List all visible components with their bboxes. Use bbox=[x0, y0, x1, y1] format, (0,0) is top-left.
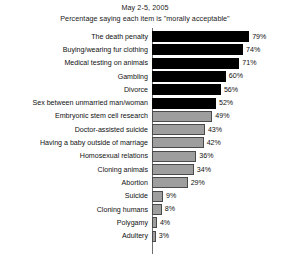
category-label: Embryonic stem cell research bbox=[0, 112, 150, 120]
chart-subtitle: Percentage saying each item is "morally … bbox=[0, 14, 290, 24]
bar-row: Abortion29% bbox=[0, 176, 290, 189]
bar-row: Doctor-assisted suicide43% bbox=[0, 123, 290, 136]
value-label: 4% bbox=[160, 219, 170, 227]
bar-row: Cloning humans8% bbox=[0, 203, 290, 216]
bar-row: Medical testing on animals71% bbox=[0, 57, 290, 70]
bar-row: Homosexual relations36% bbox=[0, 150, 290, 163]
bar-row: Cloning animals34% bbox=[0, 163, 290, 176]
bar-and-value: 36% bbox=[152, 151, 213, 162]
category-label: Abortion bbox=[0, 179, 150, 187]
bar-row: Suicide9% bbox=[0, 190, 290, 203]
value-label: 79% bbox=[252, 33, 266, 41]
bar-and-value: 4% bbox=[152, 217, 170, 228]
bar bbox=[152, 84, 221, 95]
category-label: Sex between unmarried man/woman bbox=[0, 99, 150, 107]
chart-header: May 2-5, 2005 Percentage saying each ite… bbox=[0, 0, 290, 24]
bar-and-value: 79% bbox=[152, 31, 266, 42]
value-label: 49% bbox=[215, 112, 229, 120]
value-label: 71% bbox=[242, 59, 256, 67]
bar-row: Gambling60% bbox=[0, 70, 290, 83]
value-label: 9% bbox=[166, 192, 176, 200]
bar bbox=[152, 124, 205, 135]
category-label: Polygamy bbox=[0, 219, 150, 227]
category-label: Suicide bbox=[0, 192, 150, 200]
bar bbox=[152, 137, 204, 148]
bar bbox=[152, 71, 226, 82]
value-label: 74% bbox=[246, 46, 260, 54]
bar-row: Embryonic stem cell research49% bbox=[0, 110, 290, 123]
bar bbox=[152, 164, 194, 175]
bar-row: Divorce56% bbox=[0, 83, 290, 96]
value-label: 8% bbox=[165, 205, 175, 213]
category-label: Doctor-assisted suicide bbox=[0, 126, 150, 134]
bar-row: Adultery3% bbox=[0, 230, 290, 243]
value-label: 43% bbox=[208, 126, 222, 134]
category-label: Cloning humans bbox=[0, 206, 150, 214]
category-label: Cloning animals bbox=[0, 166, 150, 174]
bar-row: Buying/wearing fur clothing74% bbox=[0, 43, 290, 56]
category-label: Medical testing on animals bbox=[0, 59, 150, 67]
bar-and-value: 60% bbox=[152, 71, 243, 82]
bar-and-value: 29% bbox=[152, 177, 205, 188]
value-label: 56% bbox=[224, 86, 238, 94]
bar-row: Polygamy4% bbox=[0, 216, 290, 229]
chart-title: May 2-5, 2005 bbox=[0, 3, 290, 13]
value-label: 3% bbox=[159, 232, 169, 240]
bar bbox=[152, 191, 163, 202]
value-label: 42% bbox=[207, 139, 221, 147]
bar-row: The death penalty79% bbox=[0, 30, 290, 43]
bar-and-value: 3% bbox=[152, 231, 169, 242]
category-label: Adultery bbox=[0, 232, 150, 240]
bar-row: Having a baby outside of marriage42% bbox=[0, 136, 290, 149]
category-label: Homosexual relations bbox=[0, 152, 150, 160]
bar-and-value: 43% bbox=[152, 124, 222, 135]
bar-and-value: 71% bbox=[152, 58, 257, 69]
bar bbox=[152, 98, 216, 109]
bar-and-value: 34% bbox=[152, 164, 211, 175]
value-label: 36% bbox=[199, 152, 213, 160]
value-label: 29% bbox=[191, 179, 205, 187]
bar-and-value: 74% bbox=[152, 44, 260, 55]
bar bbox=[152, 111, 212, 122]
bar bbox=[152, 204, 162, 215]
bar-and-value: 49% bbox=[152, 111, 229, 122]
value-label: 52% bbox=[219, 99, 233, 107]
bar-and-value: 56% bbox=[152, 84, 238, 95]
category-label: Gambling bbox=[0, 73, 150, 81]
bar-and-value: 42% bbox=[152, 137, 221, 148]
category-label: Buying/wearing fur clothing bbox=[0, 46, 150, 54]
bar bbox=[152, 217, 157, 228]
bar bbox=[152, 231, 156, 242]
category-label: Divorce bbox=[0, 86, 150, 94]
plot-area: The death penalty79%Buying/wearing fur c… bbox=[0, 28, 290, 258]
bar-and-value: 52% bbox=[152, 98, 233, 109]
value-label: 34% bbox=[197, 166, 211, 174]
bar bbox=[152, 58, 239, 69]
bar-and-value: 8% bbox=[152, 204, 175, 215]
bar bbox=[152, 151, 196, 162]
bar bbox=[152, 177, 188, 188]
chart-container: May 2-5, 2005 Percentage saying each ite… bbox=[0, 0, 290, 269]
category-label: Having a baby outside of marriage bbox=[0, 139, 150, 147]
bar bbox=[152, 31, 249, 42]
bar bbox=[152, 44, 243, 55]
value-label: 60% bbox=[229, 72, 243, 80]
category-label: The death penalty bbox=[0, 33, 150, 41]
bar-and-value: 9% bbox=[152, 191, 176, 202]
bar-row: Sex between unmarried man/woman52% bbox=[0, 97, 290, 110]
